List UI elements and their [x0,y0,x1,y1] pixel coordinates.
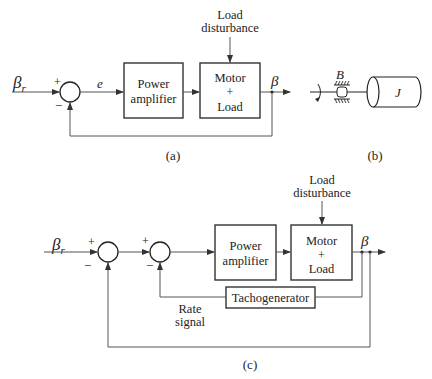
load-label: Load [217,100,243,114]
tachogenerator-label: Tachogenerator [232,291,310,305]
summing-junction-2 [150,242,170,262]
rate-signal-label-1: Rate [179,302,202,316]
sum2-minus-sign: − [146,258,153,273]
motor-label: Motor [214,71,246,85]
plus-label: + [318,248,325,262]
block-diagram-figure: βr + − e Power amplifier Motor + Load Lo… [0,0,432,379]
disturbance-label-1: Load [309,173,335,187]
summing-junction-1 [98,242,118,262]
output-label-beta: β [360,233,369,249]
caption-a: (a) [166,148,180,163]
error-label: e [97,76,103,91]
caption-c: (c) [243,357,257,372]
sum1-plus-sign: + [88,235,95,249]
plus-label: + [227,85,234,99]
damping-label-B: B [336,67,344,82]
sum2-plus-sign: + [142,234,149,248]
inertia-cylinder [367,77,421,107]
input-label-beta-r: βr [12,73,26,94]
power-amplifier-label-2: amplifier [131,92,178,106]
caption-b: (b) [367,148,382,163]
load-label: Load [309,262,335,276]
disturbance-label-2: disturbance [201,21,259,35]
motor-label: Motor [306,234,338,248]
output-label-beta: β [270,73,279,89]
power-amplifier-label-1: Power [230,239,263,253]
input-label-beta-r: βr [51,235,65,256]
sum1-minus-sign: − [84,258,91,273]
disturbance-label-2: disturbance [293,186,351,200]
disturbance-label-1: Load [217,8,243,22]
power-amplifier-label-1: Power [138,77,171,91]
sum-minus-sign: − [55,98,62,113]
figure-b-mechanical-load: B J (b) [310,67,421,163]
figure-c-rate-feedback-loop: βr + − + − Power amplifier Motor + Load … [44,173,385,372]
power-amplifier-label-2: amplifier [223,254,270,268]
figure-a-speed-loop: βr + − e Power amplifier Motor + Load Lo… [12,8,290,163]
sum-plus-sign: + [54,75,61,89]
summing-junction [60,82,80,102]
rate-signal-label-2: signal [175,315,205,329]
